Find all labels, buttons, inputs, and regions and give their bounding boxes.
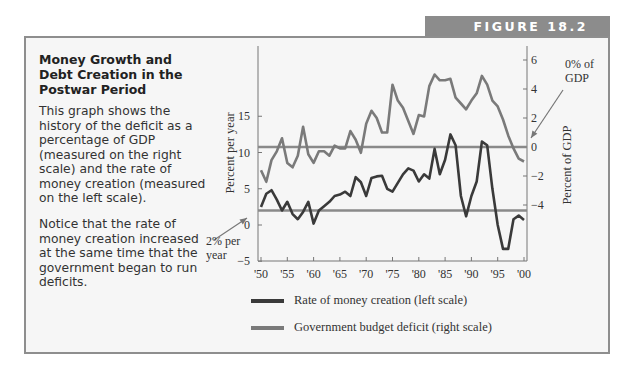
right-tick-label: −4 [531, 198, 544, 212]
left-axis-title: Percent per year [223, 112, 237, 194]
legend-label-money: Rate of money creation (left scale) [294, 293, 467, 308]
x-tick-label: '00 [517, 267, 531, 281]
x-tick-label: '65 [333, 267, 347, 281]
right-axis-title: Percent of GDP [560, 125, 574, 204]
x-tick-label: '75 [385, 267, 399, 281]
x-tick-label: '95 [491, 267, 505, 281]
left-tick-label: 15 [238, 109, 250, 123]
legend-item-deficit: Government budget deficit (right scale) [251, 320, 492, 335]
right-tick-label: −2 [531, 169, 544, 183]
arrow-0-gdp-icon-head [531, 131, 537, 138]
deficit-line [261, 75, 524, 182]
right-tick-label: 4 [531, 82, 537, 96]
legend-item-money: Rate of money creation (left scale) [251, 293, 467, 308]
x-tick-label: '85 [438, 267, 452, 281]
legend-swatch-money [251, 299, 284, 303]
annotation-2-percent: 2% per year [206, 234, 246, 262]
annotation-0-percent-gdp: 0% of GDP [565, 57, 605, 85]
legend-label-deficit: Government budget deficit (right scale) [294, 320, 492, 335]
x-tick-label: '70 [359, 267, 373, 281]
x-tick-label: '55 [280, 267, 294, 281]
x-tick-label: '50 [254, 267, 268, 281]
money-creation-line [261, 134, 524, 249]
right-tick-label: 6 [531, 53, 537, 67]
right-tick-label: 2 [531, 111, 537, 125]
x-tick-label: '80 [412, 267, 426, 281]
x-tick-label: '90 [464, 267, 478, 281]
left-tick-label: 5 [244, 182, 250, 196]
right-tick-label: 0 [531, 140, 537, 154]
left-tick-label: 10 [238, 146, 250, 160]
x-tick-label: '60 [307, 267, 321, 281]
legend-swatch-deficit [251, 326, 284, 330]
